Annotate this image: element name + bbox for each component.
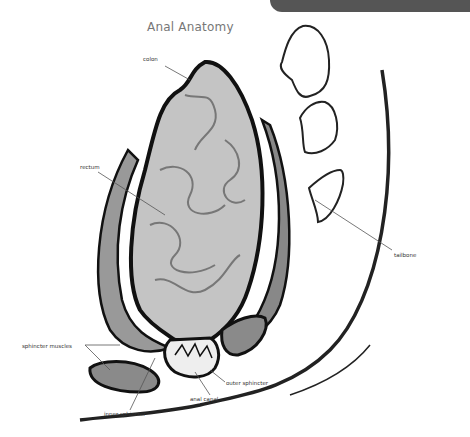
lower-left-muscle xyxy=(90,362,159,393)
tailbone-vertebrae xyxy=(281,26,344,222)
label-sphincter-muscles: sphincter muscles xyxy=(22,343,72,349)
label-rectum: rectum xyxy=(80,164,100,170)
label-anal-canal: anal canal xyxy=(190,396,218,402)
anal-canal xyxy=(165,338,219,377)
label-colon: colon xyxy=(143,56,158,62)
label-outer-sphincter: outer sphincter xyxy=(226,380,268,386)
label-inner-sphincter: inner sphincter xyxy=(104,411,146,417)
label-tailbone: tailbone xyxy=(394,252,416,258)
